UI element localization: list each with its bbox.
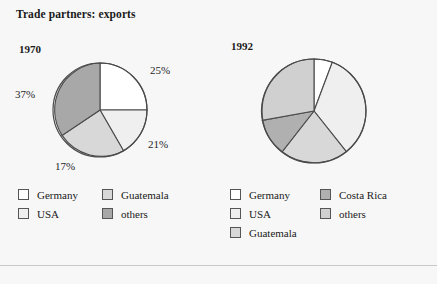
bottom-divider [0, 265, 437, 266]
legend-swatch-germany [230, 189, 241, 200]
legend-column-right: Guatemala others [102, 185, 192, 223]
legend-swatch-usa [230, 208, 241, 219]
figure-title: Trade partners: exports [16, 8, 136, 20]
legend-swatch-usa [18, 208, 29, 219]
legend-item-guatemala: Guatemala [230, 223, 320, 242]
legend-swatch-guatemala [230, 227, 241, 238]
pie-slice-others [261, 59, 314, 120]
legend-column-left: Germany USA Guatemala [230, 185, 320, 242]
legend-1970: Germany USA Guatemala others [18, 185, 192, 223]
legend-item-germany: Germany [230, 185, 320, 204]
pie-svg-1970 [45, 55, 155, 165]
legend-column-right: Costa Rica others [320, 185, 410, 242]
pie-slice-germany [100, 63, 147, 110]
legend-label-others: others [339, 208, 366, 220]
legend-swatch-costa-rica [320, 189, 331, 200]
legend-label-germany: Germany [249, 189, 290, 201]
legend-item-costa-rica: Costa Rica [320, 185, 410, 204]
legend-label-usa: USA [249, 208, 271, 220]
panel-year-label: 1970 [19, 43, 41, 55]
legend-item-usa: USA [18, 204, 102, 223]
legend-label-guatemala: Guatemala [121, 189, 169, 201]
legend-swatch-guatemala [102, 189, 113, 200]
legend-swatch-others [320, 208, 331, 219]
legend-1992: Germany USA Guatemala Costa Rica [230, 185, 410, 242]
legend-item-guatemala: Guatemala [102, 185, 192, 204]
legend-item-others: others [102, 204, 192, 223]
pie-label-usa: 21% [148, 138, 168, 150]
figure-page: Trade partners: exports 1970 25% 21% 17%… [0, 0, 437, 284]
panel-year-label: 1992 [231, 40, 253, 52]
pie-label-others: 37% [15, 88, 35, 100]
legend-swatch-germany [18, 189, 29, 200]
legend-item-usa: USA [230, 204, 320, 223]
legend-label-costa-rica: Costa Rica [339, 189, 387, 201]
legend-label-others: others [121, 208, 148, 220]
legend-label-usa: USA [37, 208, 59, 220]
legend-label-germany: Germany [37, 189, 78, 201]
legend-item-others: others [320, 204, 410, 223]
legend-column-left: Germany USA [18, 185, 102, 223]
pie-svg-1992 [255, 52, 373, 170]
pie-label-germany: 25% [150, 64, 170, 76]
legend-item-germany: Germany [18, 185, 102, 204]
pie-label-guatemala: 17% [55, 160, 75, 172]
pie-chart-1970 [45, 55, 155, 169]
legend-label-guatemala: Guatemala [249, 227, 297, 239]
legend-swatch-others [102, 208, 113, 219]
pie-chart-1992 [255, 52, 373, 174]
